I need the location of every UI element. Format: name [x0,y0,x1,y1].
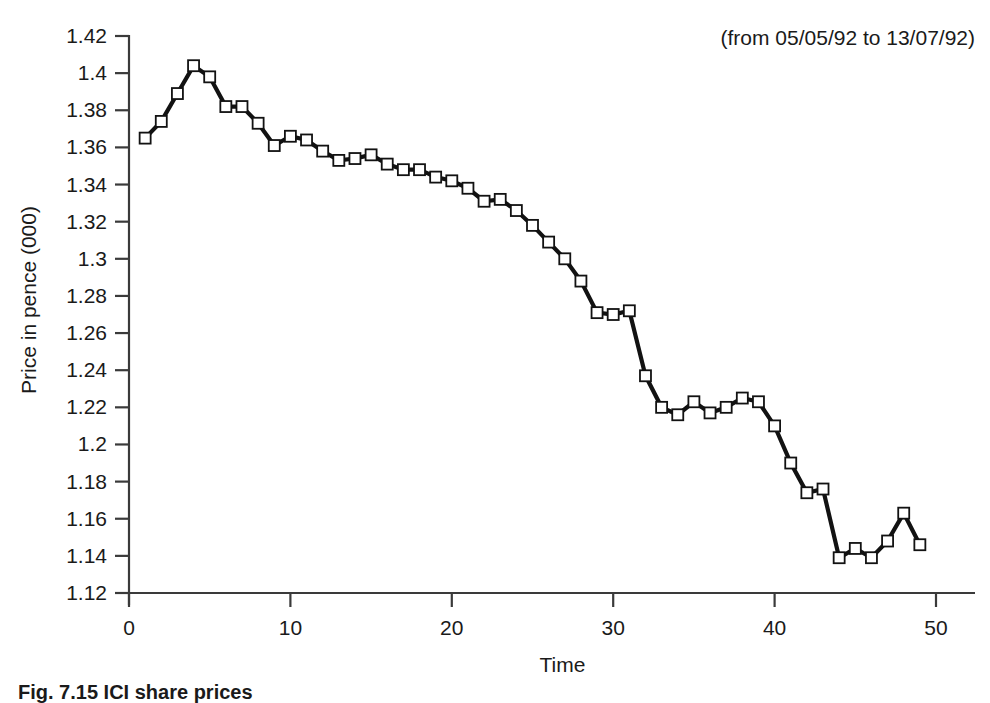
y-tick-label: 1.24 [66,358,107,381]
data-point-marker [608,309,619,320]
y-tick-label: 1.34 [66,173,107,196]
data-point-marker [204,71,215,82]
y-tick-label: 1.42 [66,24,107,47]
data-point-marker [156,116,167,127]
data-point-marker [672,409,683,420]
data-point-marker [495,194,506,205]
data-point-marker [236,101,247,112]
data-point-marker [543,237,554,248]
y-tick-label: 1.22 [66,395,107,418]
data-point-marker [559,253,570,264]
y-tick-label: 1.4 [78,61,108,84]
data-point-marker [624,305,635,316]
data-point-marker [285,131,296,142]
data-point-marker [382,159,393,170]
y-axis-title: Price in pence (000) [17,206,40,394]
data-point-marker [656,402,667,413]
y-tick-label: 1.16 [66,507,107,530]
data-point-marker [317,146,328,157]
data-point-marker [414,164,425,175]
data-point-marker [366,149,377,160]
data-point-marker [333,155,344,166]
data-point-marker [511,205,522,216]
data-point-marker [801,487,812,498]
x-axis-ticks [129,593,936,607]
y-tick-label: 1.3 [78,247,107,270]
data-point-marker [188,60,199,71]
data-point-marker [140,133,151,144]
data-point-marker [446,175,457,186]
data-point-marker [220,101,231,112]
data-point-marker [705,407,716,418]
data-point-marker [575,276,586,287]
y-axis-ticks [115,36,129,593]
x-tick-label: 10 [279,616,302,639]
data-point-marker [527,220,538,231]
data-point-marker [834,552,845,563]
data-point-marker [253,118,264,129]
date-range-annotation: (from 05/05/92 to 13/07/92) [721,26,976,49]
y-tick-label: 1.14 [66,544,107,567]
y-tick-label: 1.38 [66,98,107,121]
data-point-marker [430,172,441,183]
data-point-marker [172,88,183,99]
data-point-marker [592,307,603,318]
data-point-marker [898,508,909,519]
x-tick-label: 30 [602,616,625,639]
data-point-marker [914,539,925,550]
x-tick-label: 40 [763,616,786,639]
y-tick-label: 1.32 [66,210,107,233]
data-point-marker [398,164,409,175]
data-point-marker [462,183,473,194]
data-point-marker [640,370,651,381]
data-point-marker [721,402,732,413]
data-point-marker [769,420,780,431]
y-tick-label: 1.26 [66,321,107,344]
series-markers [140,60,926,563]
x-axis-title: Time [540,653,586,676]
data-point-marker [753,396,764,407]
data-point-marker [688,396,699,407]
data-point-marker [785,458,796,469]
x-tick-label: 50 [924,616,947,639]
data-point-marker [301,134,312,145]
y-tick-label: 1.2 [78,432,107,455]
data-point-marker [349,153,360,164]
y-tick-label: 1.36 [66,135,107,158]
data-point-marker [479,196,490,207]
data-point-marker [818,484,829,495]
data-point-marker [850,543,861,554]
data-point-marker [737,393,748,404]
series-line-ici-share-price [145,66,920,558]
y-tick-label: 1.12 [66,581,107,604]
y-tick-label: 1.18 [66,470,107,493]
y-axis-tick-labels: 1.121.141.161.181.21.221.241.261.281.31.… [66,24,107,604]
x-tick-label: 20 [440,616,463,639]
data-point-marker [866,552,877,563]
data-point-marker [882,536,893,547]
data-point-marker [269,140,280,151]
x-axis-tick-labels: 01020304050 [123,616,948,639]
y-tick-label: 1.28 [66,284,107,307]
x-tick-label: 0 [123,616,135,639]
figure-caption: Fig. 7.15 ICI share prices [18,681,253,703]
